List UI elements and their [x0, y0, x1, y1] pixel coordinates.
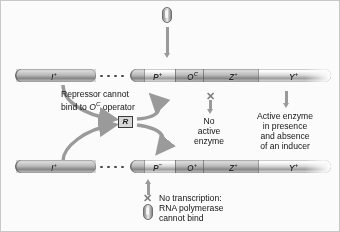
no-enzyme-arrow	[207, 100, 214, 114]
bottom-gene-label-z: Z+	[229, 162, 238, 173]
top-gene-label-o: OC	[187, 71, 198, 82]
top-strand-gap-dots	[100, 75, 124, 78]
top-gene-label-y: Y+	[289, 71, 298, 82]
active-enzyme-line1: Active enzyme	[239, 111, 331, 121]
transcription-blocked-mark-bottom: ✕	[143, 193, 152, 204]
no-active-enzyme-line1: No	[188, 116, 230, 126]
bottom-gene-label-y: Y+	[289, 162, 298, 173]
bottom-regulator-label: I+	[51, 162, 57, 173]
no-active-enzyme-line3: enzyme	[188, 136, 230, 146]
active-enzyme-line3: and absence	[239, 131, 331, 141]
active-enzyme-line4: of an inducer	[239, 141, 331, 151]
rna-polymerase-bottom	[143, 204, 153, 220]
rna-polymerase-top	[162, 7, 172, 23]
polymerase-binding-arrow-top	[164, 27, 171, 59]
repressor-note-line1: Repressor cannot	[61, 89, 129, 99]
active-enzyme-arrow	[283, 91, 290, 109]
no-transcription-line1: No transcription:	[159, 193, 222, 203]
bottom-strand-gap-dots	[100, 166, 124, 169]
top-gene-label-p: P+	[153, 71, 162, 82]
repressor-note-line2: bind to OC operator	[61, 99, 135, 112]
diagram-canvas: I+ P+ OC Z+ Y+ Repressor cannot bind to …	[0, 0, 340, 232]
no-transcription-line2: RNA polymerase	[159, 203, 223, 213]
no-transcription-line3: cannot bind	[159, 213, 203, 223]
bottom-gene-label-o: O+	[187, 162, 197, 173]
active-enzyme-line2: in presence	[239, 121, 331, 131]
top-regulator-label: I+	[51, 71, 57, 82]
bottom-gene-label-p: P−	[153, 162, 162, 173]
top-gene-label-z: Z+	[229, 71, 238, 82]
no-active-enzyme-line2: active	[188, 126, 230, 136]
repressor-protein: R	[118, 116, 133, 128]
